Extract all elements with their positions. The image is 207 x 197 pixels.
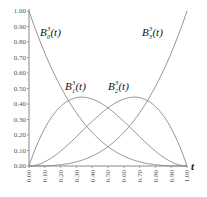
x-tick-label: 0.10 xyxy=(41,170,49,183)
curve-labels: B30(t)B31(t)B32(t)B33(t) xyxy=(40,26,163,94)
y-tick-label: 0.90 xyxy=(14,23,27,31)
x-tick-label: 0.20 xyxy=(57,170,65,183)
curve-b2 xyxy=(29,97,187,166)
curve-label-b3: B33(t) xyxy=(142,26,163,40)
x-tick-label: 0.90 xyxy=(168,170,176,183)
x-axis-label: t xyxy=(191,160,195,172)
y-tick-label: 0.70 xyxy=(14,54,27,62)
y-tick-label: 0.10 xyxy=(14,147,27,155)
y-tick-label: 0.30 xyxy=(14,116,27,124)
y-axis-ticks: 0.000.100.200.300.400.500.600.700.800.90… xyxy=(14,7,29,170)
x-axis-ticks: 0.000.100.200.300.400.500.600.700.800.90… xyxy=(25,166,191,182)
y-tick-label: 0.00 xyxy=(14,162,27,170)
x-tick-label: 0.80 xyxy=(152,170,160,183)
x-tick-label: 0.60 xyxy=(120,170,128,183)
x-tick-label: 0.30 xyxy=(73,170,81,183)
x-tick-label: 0.00 xyxy=(25,170,33,183)
y-tick-label: 1.00 xyxy=(14,7,27,15)
x-tick-label: 0.50 xyxy=(104,170,112,183)
y-tick-label: 0.40 xyxy=(14,100,27,108)
y-tick-label: 0.20 xyxy=(14,131,27,139)
curve-label-b2: B32(t) xyxy=(108,80,129,94)
y-tick-label: 0.50 xyxy=(14,85,27,93)
bernstein-chart: 0.000.100.200.300.400.500.600.700.800.90… xyxy=(0,0,207,197)
x-tick-label: 0.40 xyxy=(89,170,97,183)
curve-label-b1: B31(t) xyxy=(65,80,86,94)
y-tick-label: 0.80 xyxy=(14,38,27,46)
x-tick-label: 0.70 xyxy=(136,170,144,183)
y-tick-label: 0.60 xyxy=(14,69,27,77)
curve-label-b0: B30(t) xyxy=(40,26,61,40)
